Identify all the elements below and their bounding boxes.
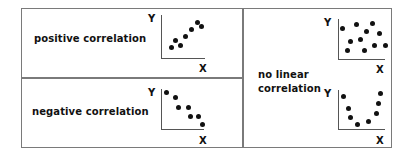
data-point — [164, 90, 169, 95]
data-point — [364, 29, 369, 34]
negative-y-label: Y — [148, 87, 155, 98]
curve-x-label: X — [376, 135, 384, 146]
data-point — [186, 105, 191, 110]
positive-x-label: X — [199, 63, 207, 74]
data-point — [374, 111, 379, 116]
scatter-x-axis — [338, 59, 385, 60]
data-point — [383, 43, 388, 48]
data-point — [358, 37, 363, 42]
negative-y-axis — [161, 89, 162, 130]
scatter-y-axis — [338, 19, 339, 60]
scatter-y-label: Y — [324, 17, 331, 28]
curve-y-axis — [338, 90, 339, 130]
data-point — [366, 119, 371, 124]
data-point — [196, 114, 201, 119]
row-divider — [21, 77, 242, 79]
data-point — [178, 43, 183, 48]
positive-correlation-label: positive correlation — [34, 32, 146, 45]
negative-x-axis — [161, 129, 204, 130]
data-point — [377, 31, 382, 36]
data-point — [176, 105, 181, 110]
data-point — [372, 43, 377, 48]
negative-x-label: X — [199, 135, 207, 146]
data-point — [348, 39, 353, 44]
data-point — [378, 91, 383, 96]
negative-correlation-label: negative correlation — [32, 105, 149, 118]
column-divider — [242, 8, 244, 148]
data-point — [341, 94, 346, 99]
positive-y-axis — [161, 15, 162, 59]
data-point — [173, 38, 178, 43]
data-point — [340, 26, 345, 31]
data-point — [189, 27, 194, 32]
data-point — [183, 34, 188, 39]
data-point — [200, 122, 205, 127]
data-point — [354, 22, 359, 27]
data-point — [376, 101, 381, 106]
data-point — [173, 95, 178, 100]
curve-x-axis — [338, 129, 385, 130]
data-point — [355, 122, 360, 127]
data-point — [169, 45, 174, 50]
data-point — [362, 48, 367, 53]
data-point — [370, 21, 375, 26]
data-point — [348, 115, 353, 120]
data-point — [188, 114, 193, 119]
scatter-x-label: X — [376, 64, 384, 75]
data-point — [199, 24, 204, 29]
no-linear-label-line2: correlation — [258, 82, 321, 95]
data-point — [346, 106, 351, 111]
data-point — [345, 48, 350, 53]
curve-y-label: Y — [324, 88, 331, 99]
no-linear-label-line1: no linear — [258, 68, 309, 81]
positive-y-label: Y — [148, 13, 155, 24]
positive-x-axis — [161, 58, 205, 59]
